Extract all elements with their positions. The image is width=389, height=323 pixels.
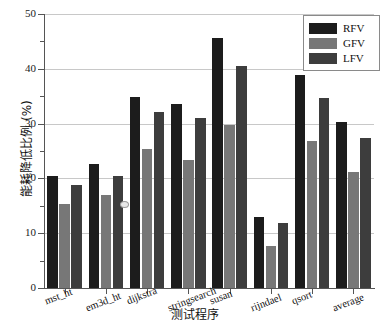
bar-rijndael-gfv bbox=[266, 246, 277, 288]
x-axis-title: 测试程序 bbox=[0, 305, 389, 322]
bar-stringsearch-rfv bbox=[171, 104, 182, 288]
bar-rijndael-rfv bbox=[254, 217, 265, 288]
y-axis-title: 能耗降低比例 (%) bbox=[17, 64, 34, 234]
bar-mst-ht-rfv bbox=[47, 176, 58, 288]
legend-swatch-lfv bbox=[309, 53, 337, 64]
legend-item-gfv: GFV bbox=[309, 36, 374, 50]
chart-legend: RFV GFV LFV bbox=[303, 15, 380, 71]
bar-stringsearch-gfv bbox=[183, 160, 194, 288]
bar-average-rfv bbox=[336, 122, 347, 288]
chart-figure: 01020304050 mst_htem3d_htdijkstrastrings… bbox=[0, 0, 389, 323]
legend-swatch-rfv bbox=[309, 23, 337, 34]
bar-qsort-rfv bbox=[295, 75, 306, 288]
bar-susan-lfv bbox=[236, 66, 247, 288]
bar-susan-gfv bbox=[224, 125, 235, 288]
bar-dijkstra-lfv bbox=[154, 112, 165, 288]
x-axis-label-qsort: qsort bbox=[290, 288, 314, 306]
bar-dijkstra-gfv bbox=[142, 149, 153, 288]
legend-label-rfv: RFV bbox=[343, 23, 364, 34]
bar-dijkstra-rfv bbox=[130, 97, 141, 288]
legend-label-lfv: LFV bbox=[343, 53, 364, 64]
bar-qsort-gfv bbox=[307, 141, 318, 288]
legend-item-lfv: LFV bbox=[309, 51, 374, 65]
legend-item-rfv: RFV bbox=[309, 21, 374, 35]
bar-average-gfv bbox=[348, 172, 359, 288]
y-tick-label-50: 50 bbox=[16, 7, 36, 19]
bar-em3d-ht-lfv bbox=[113, 176, 124, 288]
bar-mst-ht-lfv bbox=[71, 185, 82, 288]
bar-mst-ht-gfv bbox=[59, 204, 70, 288]
scan-artifact-speck bbox=[120, 201, 129, 208]
bar-qsort-lfv bbox=[319, 98, 330, 288]
legend-swatch-gfv bbox=[309, 38, 337, 49]
bar-em3d-ht-rfv bbox=[89, 164, 100, 288]
bar-em3d-ht-gfv bbox=[101, 195, 112, 288]
bar-stringsearch-lfv bbox=[195, 118, 206, 288]
x-tick-qsort bbox=[312, 289, 313, 294]
bar-average-lfv bbox=[360, 138, 371, 288]
bar-susan-rfv bbox=[212, 38, 223, 288]
legend-label-gfv: GFV bbox=[343, 38, 365, 49]
bar-rijndael-lfv bbox=[278, 223, 289, 288]
y-tick-label-0: 0 bbox=[16, 281, 36, 293]
